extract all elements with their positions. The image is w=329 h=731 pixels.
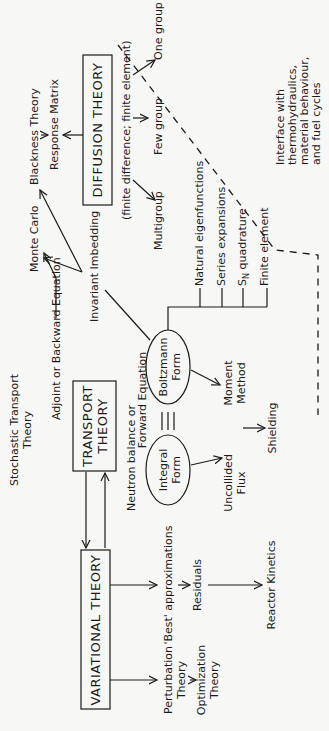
- diffusion-theory-label: DIFFUSION THEORY: [90, 63, 105, 198]
- reactor-kinetics-label: Reactor Kinetics: [265, 540, 278, 629]
- finite-element-label: Finite element: [258, 207, 271, 286]
- invariant-imbedding-label: Invariant Imbedding: [88, 211, 101, 322]
- stochastic-transport-label-2: Theory: [21, 410, 34, 450]
- monte-carlo-label: Monte Carlo: [28, 205, 41, 272]
- response-matrix-label: Response Matrix: [48, 79, 61, 170]
- optimization-theory-label-1: Optimization: [195, 645, 208, 715]
- residuals-label: Residuals: [191, 559, 204, 611]
- finite-difference-label: (finite difference; finite element): [120, 41, 133, 220]
- equivalence-symbol: [162, 412, 174, 430]
- neutron-balance-label-2: Forward Equation: [136, 352, 149, 448]
- invariant-to-boltzmann-line: [105, 290, 150, 340]
- uncollided-flux-label-2: Flux: [235, 471, 248, 494]
- blackness-theory-label: Blackness Theory: [28, 88, 41, 185]
- variational-theory-label: VARIATIONAL THEORY: [88, 554, 103, 705]
- uncollided-flux-label-1: Uncollided: [222, 454, 235, 512]
- moment-method-label-2: Method: [235, 362, 248, 403]
- diagram-canvas: VARIATIONAL THEORY TRANSPORT THEORY DIFF…: [0, 0, 329, 731]
- perturbation-theory-label-1: Perturbation: [162, 646, 175, 714]
- diffusion-to-multigroup-arrow: [133, 180, 155, 200]
- transport-theory-box: TRANSPORT THEORY: [73, 381, 116, 471]
- boltzmann-methods-bracket: [168, 307, 267, 330]
- one-group-label: One group: [152, 2, 165, 60]
- variational-theory-box: VARIATIONAL THEORY: [81, 550, 110, 709]
- interface-label-4: and fuel cycles: [310, 82, 323, 165]
- moment-method-label-1: Moment: [222, 360, 235, 406]
- multigroup-label: Multigroup: [152, 191, 165, 250]
- sn-quadrature-label: SN quadrature: [236, 208, 251, 286]
- integral-to-uncollided-arrow: [191, 458, 222, 465]
- transport-theory-label-1: TRANSPORT: [80, 385, 95, 468]
- integral-form-label-2: Form: [170, 456, 183, 484]
- shielding-label: Shielding: [266, 403, 279, 454]
- natural-eigenfunctions-label: Natural eigenfunctions: [193, 160, 206, 286]
- integral-form-ellipse: Integral Form: [146, 435, 190, 505]
- best-approximations-label: 'Best' approximations: [162, 525, 175, 644]
- integral-form-label-1: Integral: [157, 449, 170, 492]
- boltzmann-form-label-2: Form: [170, 353, 183, 381]
- perturbation-theory-label-2: Theory: [175, 660, 188, 700]
- transport-theory-label-2: THEORY: [95, 398, 110, 454]
- few-group-label: Few group: [152, 98, 165, 155]
- series-expansions-label: Series expansions: [215, 186, 228, 286]
- boltzmann-form-label-1: Boltzmann: [157, 338, 170, 397]
- optimization-theory-label-2: Theory: [208, 660, 221, 700]
- boltzmann-form-ellipse: Boltzmann Form: [146, 330, 190, 404]
- stochastic-transport-label-1: Stochastic Transport: [8, 373, 21, 486]
- diffusion-theory-box: DIFFUSION THEORY: [83, 55, 112, 205]
- boltzmann-to-moment-arrow: [191, 370, 220, 385]
- diffusion-to-one-group-arrow: [133, 60, 155, 75]
